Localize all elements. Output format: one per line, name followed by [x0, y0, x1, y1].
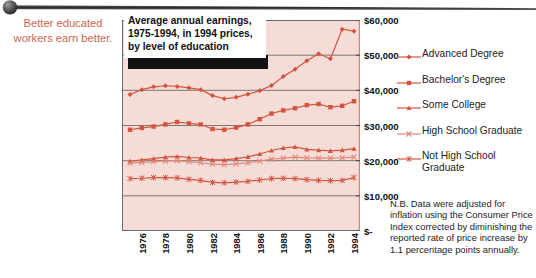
- annotation-line-2: workers earn better.: [4, 31, 122, 46]
- data-point-diamond: [340, 27, 345, 32]
- legend-item[interactable]: Not High School Graduate: [396, 150, 536, 173]
- chart-footnote: N.B. Data were adjusted for inflation us…: [390, 198, 536, 255]
- data-point-square: [128, 128, 132, 132]
- data-point-square: [210, 127, 214, 131]
- y-axis-tick-label: $50,000: [364, 50, 399, 61]
- data-point-square: [175, 120, 179, 124]
- data-point-square: [293, 106, 297, 110]
- y-axis-tick-label: $30,000: [364, 120, 399, 131]
- data-point-square: [140, 126, 144, 130]
- data-point-square: [234, 125, 238, 129]
- diamond-marker-icon: [396, 49, 422, 61]
- data-point-diamond: [210, 93, 215, 98]
- data-point-square: [222, 128, 226, 132]
- x-axis-tick-label: 1990: [302, 233, 313, 254]
- data-point-square: [163, 122, 167, 126]
- data-point-square: [352, 99, 356, 103]
- data-point-diamond: [128, 92, 133, 97]
- x-axis-tick-label: 1994: [349, 233, 360, 254]
- legend-item[interactable]: Some College: [396, 99, 536, 112]
- x-axis-tick-label: 1986: [255, 233, 266, 254]
- x-axis-labels: 1976197819801982198419861988199019921994: [122, 233, 360, 277]
- title-line-3: by level of education: [128, 40, 262, 53]
- legend-item[interactable]: High School Graduate: [396, 125, 536, 138]
- data-point-square: [316, 102, 320, 106]
- title-line-1: Average annual earnings,: [128, 14, 262, 27]
- x-axis-tick-label: 1982: [208, 233, 219, 254]
- star-marker-icon: [396, 151, 422, 163]
- data-point-diamond: [175, 84, 180, 89]
- data-point-diamond: [407, 55, 412, 60]
- data-point-square: [246, 122, 250, 126]
- data-point-square: [187, 121, 191, 125]
- legend-item-label: Advanced Degree: [422, 48, 504, 60]
- y-axis-tick-label: $-: [364, 226, 373, 237]
- data-point-diamond: [163, 83, 168, 88]
- x-axis-tick-label: 1984: [231, 233, 242, 254]
- y-axis-tick-label: $60,000: [364, 15, 399, 26]
- y-axis-tick-label: $20,000: [364, 155, 399, 166]
- data-point-square: [407, 80, 411, 84]
- x-axis-tick-label: 1980: [184, 233, 195, 254]
- data-point-diamond: [328, 56, 333, 61]
- data-point-square: [257, 117, 261, 121]
- data-point-diamond: [198, 87, 203, 92]
- data-point-diamond: [151, 84, 156, 89]
- chart-legend: Advanced DegreeBachelor's DegreeSome Col…: [396, 48, 536, 186]
- data-point-square: [199, 122, 203, 126]
- triangle-marker-icon: [396, 100, 422, 112]
- data-point-diamond: [352, 29, 357, 34]
- annotation-line-1: Better educated: [4, 16, 122, 31]
- x-axis-tick-label: 1976: [137, 233, 148, 254]
- data-point-diamond: [186, 85, 191, 90]
- data-point-diamond: [222, 96, 227, 101]
- x-axis-tick-label: 1992: [325, 233, 336, 254]
- title-line-2: 1975-1994, in 1994 prices,: [128, 27, 262, 40]
- legend-item-label: Bachelor's Degree: [422, 74, 506, 86]
- data-point-square: [340, 104, 344, 108]
- data-point-diamond: [234, 95, 239, 100]
- data-point-diamond: [245, 92, 250, 97]
- data-point-square: [305, 103, 309, 107]
- legend-item-label: Some College: [422, 99, 486, 111]
- legend-item-label: Not High School Graduate: [422, 150, 536, 173]
- chart-title: Average annual earnings, 1975-1994, in 1…: [124, 11, 266, 58]
- data-point-square: [269, 111, 273, 115]
- annotation-text: Better educated workers earn better.: [4, 16, 122, 46]
- x-axis-tick-label: 1988: [278, 233, 289, 254]
- legend-item-label: High School Graduate: [422, 125, 522, 137]
- x-axis-tick-label: 1978: [160, 233, 171, 254]
- data-point-square: [281, 108, 285, 112]
- pin-decoration: [0, 0, 536, 16]
- legend-item[interactable]: Advanced Degree: [396, 48, 536, 61]
- legend-item[interactable]: Bachelor's Degree: [396, 74, 536, 87]
- data-point-square: [151, 124, 155, 128]
- x-marker-icon: [396, 126, 422, 138]
- data-point-diamond: [257, 88, 262, 93]
- y-axis-tick-label: $40,000: [364, 85, 399, 96]
- data-point-square: [328, 105, 332, 109]
- data-point-diamond: [139, 87, 144, 92]
- square-marker-icon: [396, 75, 422, 87]
